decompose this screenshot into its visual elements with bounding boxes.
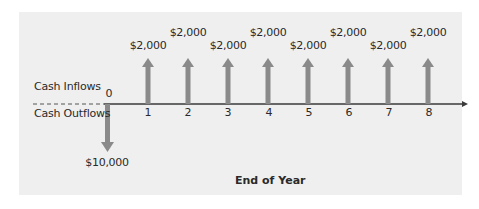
year-label-2: 2 <box>185 106 192 119</box>
inflow-amount-2: $2,000 <box>170 26 207 39</box>
year-label-8: 8 <box>426 106 433 119</box>
inflow-amount-6: $2,000 <box>330 26 367 39</box>
x-axis-title: End of Year <box>235 174 306 187</box>
inflow-arrow-icon <box>422 58 434 104</box>
inflow-arrow-icon <box>382 58 394 104</box>
inflow-arrow-icon <box>222 58 234 104</box>
year-label-4: 4 <box>266 106 273 119</box>
inflow-amount-7: $2,000 <box>370 39 407 52</box>
outflow-amount: $10,000 <box>85 156 128 169</box>
inflow-amount-3: $2,000 <box>210 39 247 52</box>
inflow-arrow-icon <box>302 58 314 104</box>
inflow-amount-4: $2,000 <box>250 26 287 39</box>
year-label-5: 5 <box>306 106 313 119</box>
inflow-amount-5: $2,000 <box>290 39 327 52</box>
inflow-arrow-icon <box>262 58 274 104</box>
axis-arrowhead-icon <box>462 101 468 107</box>
year-label-3: 3 <box>225 106 232 119</box>
cash-outflows-label: Cash Outflows <box>34 107 110 120</box>
year-label-1: 1 <box>145 106 152 119</box>
year-label-7: 7 <box>386 106 393 119</box>
inflow-amount-1: $2,000 <box>130 39 167 52</box>
year-label-0: 0 <box>106 87 113 100</box>
inflow-arrow-icon <box>182 58 194 104</box>
cash-inflows-label: Cash Inflows <box>34 80 101 93</box>
inflow-arrow-icon <box>142 58 154 104</box>
inflow-arrow-icon <box>342 58 354 104</box>
inflow-amount-8: $2,000 <box>410 26 447 39</box>
year-label-6: 6 <box>346 106 353 119</box>
